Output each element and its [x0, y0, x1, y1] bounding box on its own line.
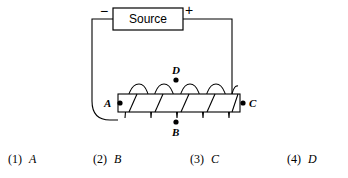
physics-question-figure: Source − + A B C D (1) A (2) B (3) C (4)… — [0, 0, 348, 178]
point-marker-a — [117, 100, 122, 105]
point-label-d: D — [172, 65, 180, 76]
answer-choice-4[interactable]: (4) D — [287, 152, 317, 167]
point-label-a: A — [104, 98, 111, 109]
answer-choice-1[interactable]: (1) A — [8, 152, 36, 167]
point-marker-c — [240, 100, 245, 105]
answer-choice-1-value: A — [29, 152, 36, 167]
answer-choice-3-value: C — [211, 152, 219, 167]
positive-wire — [183, 19, 232, 94]
answer-choice-2[interactable]: (2) B — [93, 152, 121, 167]
answer-choice-2-value: B — [114, 152, 121, 167]
point-label-b: B — [172, 127, 179, 138]
point-marker-d — [173, 77, 178, 82]
answer-choice-1-number: (1) — [8, 152, 22, 167]
answer-choices: (1) A (2) B (3) C (4) D — [0, 152, 348, 172]
answer-choice-3[interactable]: (3) C — [190, 152, 219, 167]
negative-terminal-sign: − — [100, 4, 108, 18]
answer-choice-4-value: D — [308, 152, 317, 167]
point-label-c: C — [249, 98, 256, 109]
answer-choice-4-number: (4) — [287, 152, 301, 167]
point-marker-b — [173, 119, 178, 124]
positive-terminal-sign: + — [185, 3, 193, 17]
answer-choice-3-number: (3) — [190, 152, 204, 167]
source-box-label: Source — [113, 8, 183, 30]
answer-choice-2-number: (2) — [93, 152, 107, 167]
